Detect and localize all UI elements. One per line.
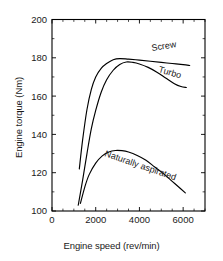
y-tick-label: 100 — [31, 205, 47, 216]
y-tick-label: 160 — [31, 91, 47, 102]
engine-torque-chart: 0200040006000100120140160180200 ScrewTur… — [0, 0, 223, 261]
y-tick-label: 200 — [31, 14, 47, 25]
y-tick-label: 180 — [31, 52, 47, 63]
y-tick-label: 120 — [31, 167, 47, 178]
x-axis-title: Engine speed (rev/min) — [0, 240, 223, 251]
curve-label-naturally-aspirated: Naturally aspirated — [103, 148, 177, 182]
series-line-turbo — [78, 62, 186, 205]
x-tick-label: 0 — [49, 214, 54, 225]
axis-ticks — [52, 20, 205, 212]
curve-label-screw: Screw — [151, 39, 178, 53]
plot-frame — [52, 20, 205, 212]
x-tick-label: 6000 — [173, 214, 194, 225]
x-tick-label: 2000 — [85, 214, 106, 225]
y-tick-label: 140 — [31, 129, 47, 140]
x-tick-label: 4000 — [129, 214, 150, 225]
chart-canvas: 0200040006000100120140160180200 ScrewTur… — [0, 0, 223, 261]
curve-label-turbo: Turbo — [157, 64, 182, 80]
y-axis-title: Engine torque (Nm) — [13, 48, 24, 188]
data-series-group — [78, 59, 189, 206]
